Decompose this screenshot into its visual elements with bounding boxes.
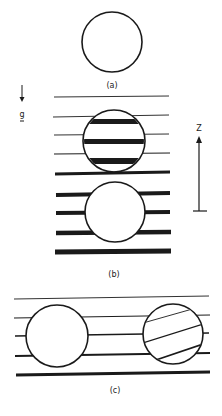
- z-axis-label: Z: [196, 124, 202, 133]
- stratification-line: [14, 296, 209, 299]
- sphere-stripe: [80, 139, 150, 144]
- gravity-arrowhead-icon: [20, 97, 25, 102]
- panel-b-label: (b): [108, 270, 119, 279]
- z-axis: Z: [193, 124, 207, 211]
- panel-b: (b): [53, 96, 171, 279]
- sphere-c-left: [26, 305, 88, 367]
- stratification-line: [16, 372, 210, 375]
- gravity-indicator: g: [19, 85, 24, 121]
- panel-c-label: (c): [110, 386, 121, 395]
- stratification-line: [55, 251, 171, 252]
- panel-c: (c): [14, 296, 210, 395]
- diagram: (a) g (b) Z: [0, 0, 222, 416]
- sphere-b-lower: [85, 182, 145, 242]
- panel-a-label: (a): [106, 81, 117, 90]
- z-arrowhead-icon: [196, 136, 202, 143]
- gravity-label: g: [19, 110, 24, 119]
- sphere-a: [82, 12, 142, 72]
- stratification-line: [55, 172, 170, 174]
- panel-a: (a): [82, 12, 142, 90]
- stratification-line: [54, 96, 169, 97]
